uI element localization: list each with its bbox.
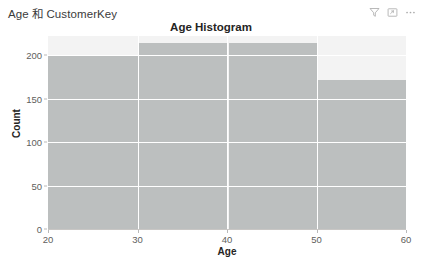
x-axis-tick-label: 50 [311,234,322,245]
y-axis-tick-label: 150 [26,93,42,104]
x-axis-tick-mark [317,230,318,233]
y-axis: 050100150200 [0,36,48,229]
focus-mode-icon[interactable] [387,7,398,18]
histogram-bar[interactable] [229,43,317,229]
x-axis-tick-label: 60 [401,234,412,245]
y-axis-tick-label: 200 [26,50,42,61]
x-axis-tick-mark [48,230,49,233]
y-axis-tick-mark [44,55,47,56]
y-axis-tick-label: 0 [37,224,42,235]
y-axis-tick-mark [44,98,47,99]
more-options-icon[interactable] [405,7,416,18]
x-axis-tick-label: 20 [43,234,54,245]
header-actions [369,7,416,18]
y-axis-tick-mark [44,185,47,186]
x-axis-tick-label: 30 [132,234,143,245]
y-axis-tick-mark [44,142,47,143]
x-axis-tick-mark [138,230,139,233]
y-axis-tick-label: 50 [31,180,42,191]
chart-title: Age Histogram [0,21,422,33]
y-axis-label: Count [11,84,22,164]
x-axis-label: Age [48,246,406,257]
plot-area [48,36,406,229]
x-axis: 2030405060 [48,230,406,246]
chart-visual-card: Age 和 CustomerKey [0,0,422,273]
histogram-bar[interactable] [318,80,406,229]
histogram-bar[interactable] [139,43,227,229]
filter-icon[interactable] [369,7,380,18]
bars-layer [48,36,406,229]
y-axis-tick-label: 100 [26,137,42,148]
histogram-bar[interactable] [48,56,138,229]
x-axis-tick-mark [227,230,228,233]
y-axis-tick-mark [44,229,47,230]
visual-subtitle: Age 和 CustomerKey [8,5,117,21]
x-axis-tick-label: 40 [222,234,233,245]
x-axis-tick-mark [406,230,407,233]
